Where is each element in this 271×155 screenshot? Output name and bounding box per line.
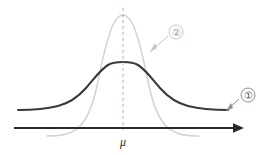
callout-curve-2-label: ② [172, 28, 181, 38]
axis-right-arrowhead-icon [233, 123, 244, 133]
figure-canvas: ② ① μ [0, 0, 271, 155]
callout-curve-1-arrowhead-icon [226, 103, 233, 111]
normal-curves-figure: ② ① μ [0, 0, 271, 155]
callout-curve-2-arrowhead-icon [150, 43, 157, 52]
mean-symbol-label: μ [119, 135, 126, 149]
callout-curve-1-label: ① [244, 91, 253, 101]
